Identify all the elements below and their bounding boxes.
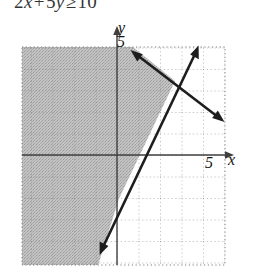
plot-svg — [0, 0, 255, 276]
graph-figure: 2x+5y≥10 — [0, 0, 255, 276]
grid-lines — [22, 47, 225, 265]
x-axis-tick-label-5: 5 — [205, 155, 213, 171]
coordinate-plot — [0, 0, 255, 276]
x-axis-label: x — [228, 152, 235, 168]
y-axis-tick-label-5: 5 — [117, 34, 125, 50]
